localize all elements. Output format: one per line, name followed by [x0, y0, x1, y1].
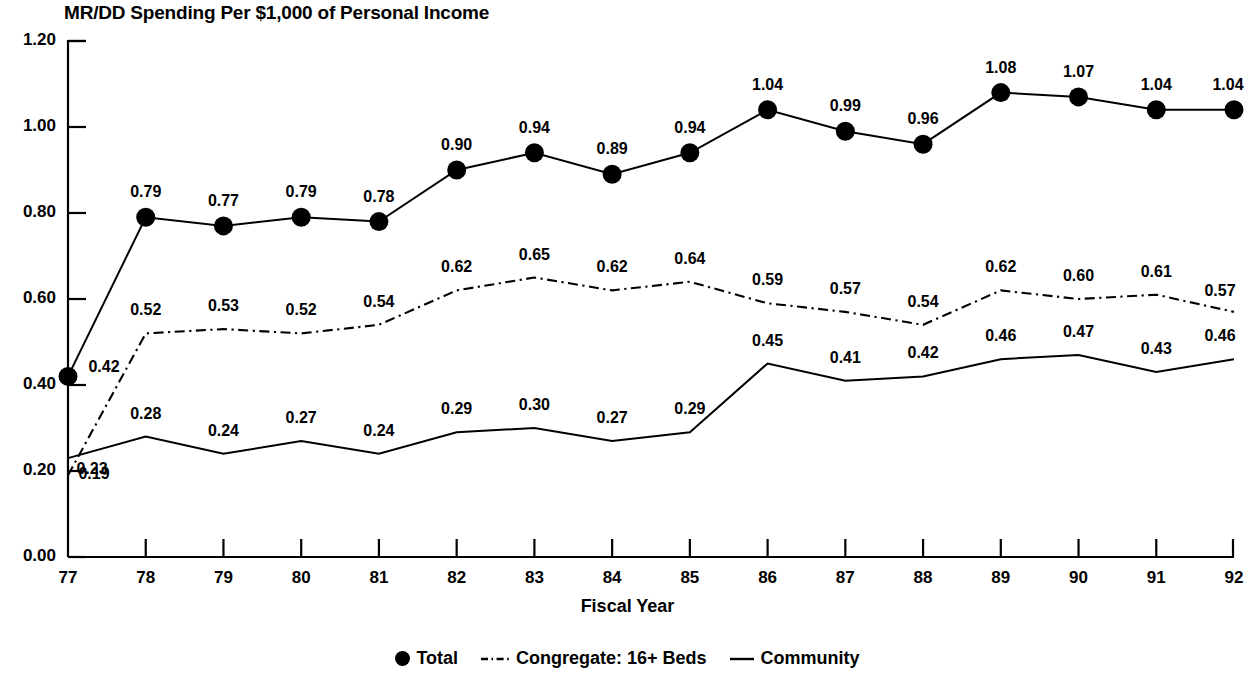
data-point-label: 0.42	[897, 344, 949, 362]
data-point-label: 0.45	[742, 332, 794, 350]
data-point-label: 0.46	[975, 327, 1027, 345]
data-point-label: 0.65	[508, 246, 560, 264]
data-point-label: 0.23	[66, 460, 118, 478]
x-tick-label: 82	[437, 568, 477, 588]
y-tick-label: 0.20	[0, 460, 56, 480]
y-tick-label: 1.00	[0, 116, 56, 136]
data-point-label: 0.53	[197, 297, 249, 315]
x-tick-label: 88	[903, 568, 943, 588]
data-point-label: 0.57	[1194, 282, 1246, 300]
x-tick-label: 78	[126, 568, 166, 588]
data-point-label: 0.29	[431, 400, 483, 418]
data-point-marker	[136, 208, 155, 227]
dash-dot-line-icon	[480, 652, 510, 666]
data-point-label: 0.96	[897, 110, 949, 128]
data-point-label: 0.64	[664, 250, 716, 268]
filled-circle-marker-icon	[395, 651, 410, 666]
data-point-marker	[836, 122, 855, 141]
data-point-marker	[758, 100, 777, 119]
x-tick-label: 77	[48, 568, 88, 588]
data-point-label: 0.60	[1053, 267, 1105, 285]
y-tick-label: 0.40	[0, 374, 56, 394]
legend-label-community: Community	[761, 648, 860, 669]
data-point-marker	[369, 212, 388, 231]
legend-label-total: Total	[416, 648, 458, 669]
x-tick-label: 81	[359, 568, 399, 588]
data-point-marker	[292, 208, 311, 227]
data-point-label: 0.46	[1194, 327, 1246, 345]
data-point-label: 0.42	[78, 358, 130, 376]
data-point-label: 0.79	[275, 183, 327, 201]
data-point-label: 0.54	[897, 293, 949, 311]
data-point-marker	[603, 165, 622, 184]
data-point-marker	[59, 367, 78, 386]
data-point-label: 0.79	[120, 183, 172, 201]
data-point-marker	[525, 143, 544, 162]
legend-item-congregate: Congregate: 16+ Beds	[480, 648, 707, 669]
data-point-marker	[680, 143, 699, 162]
x-tick-label: 84	[592, 568, 632, 588]
x-tick-label: 86	[748, 568, 788, 588]
data-point-label: 0.30	[508, 396, 560, 414]
data-point-label: 0.43	[1130, 340, 1182, 358]
data-point-marker	[914, 135, 933, 154]
data-point-label: 0.89	[586, 140, 638, 158]
y-tick-label: 0.00	[0, 546, 56, 566]
data-point-label: 0.24	[353, 422, 405, 440]
data-point-label: 0.47	[1053, 323, 1105, 341]
data-point-label: 0.24	[197, 422, 249, 440]
legend-label-congregate: Congregate: 16+ Beds	[516, 648, 707, 669]
x-tick-label: 89	[981, 568, 1021, 588]
data-point-label: 0.29	[664, 400, 716, 418]
data-point-label: 0.59	[742, 271, 794, 289]
data-point-label: 0.27	[586, 409, 638, 427]
data-point-label: 0.94	[664, 119, 716, 137]
x-tick-label: 79	[203, 568, 243, 588]
data-point-label: 0.77	[197, 192, 249, 210]
data-point-label: 0.99	[819, 97, 871, 115]
data-point-label: 0.54	[353, 293, 405, 311]
data-point-label: 0.52	[120, 301, 172, 319]
data-point-label: 1.04	[742, 76, 794, 94]
data-point-label: 0.28	[120, 405, 172, 423]
data-point-label: 1.08	[975, 59, 1027, 77]
data-point-label: 1.04	[1130, 76, 1182, 94]
x-axis-ticks	[146, 539, 1157, 557]
data-point-marker	[1147, 100, 1166, 119]
x-tick-label: 85	[670, 568, 710, 588]
data-point-label: 0.62	[975, 258, 1027, 276]
data-point-marker	[447, 161, 466, 180]
x-tick-label: 92	[1214, 568, 1254, 588]
data-point-marker	[1069, 87, 1088, 106]
data-point-label: 0.52	[275, 301, 327, 319]
y-tick-label: 1.20	[0, 30, 56, 50]
solid-line-icon	[729, 652, 755, 666]
x-tick-label: 87	[825, 568, 865, 588]
data-point-label: 0.61	[1130, 263, 1182, 281]
data-point-marker	[991, 83, 1010, 102]
y-tick-label: 0.60	[0, 288, 56, 308]
data-point-label: 0.62	[431, 258, 483, 276]
data-point-label: 0.57	[819, 280, 871, 298]
x-tick-label: 90	[1059, 568, 1099, 588]
x-tick-label: 80	[281, 568, 321, 588]
chart-container: MR/DD Spending Per $1,000 of Personal In…	[0, 0, 1255, 681]
data-point-label: 0.41	[819, 349, 871, 367]
chart-legend: Total Congregate: 16+ Beds Community	[0, 648, 1255, 669]
legend-item-total: Total	[395, 648, 458, 669]
x-tick-label: 91	[1136, 568, 1176, 588]
data-point-label: 0.62	[586, 258, 638, 276]
legend-item-community: Community	[729, 648, 860, 669]
x-axis-title: Fiscal Year	[0, 596, 1255, 617]
data-point-marker	[1225, 100, 1244, 119]
data-point-label: 1.07	[1053, 63, 1105, 81]
data-point-label: 0.90	[431, 136, 483, 154]
data-point-label: 1.04	[1202, 76, 1254, 94]
y-tick-label: 0.80	[0, 202, 56, 222]
data-point-marker	[214, 216, 233, 235]
data-point-label: 0.94	[508, 119, 560, 137]
data-point-label: 0.27	[275, 409, 327, 427]
x-tick-label: 83	[514, 568, 554, 588]
series-line-community	[68, 355, 1234, 458]
data-point-label: 0.78	[353, 188, 405, 206]
